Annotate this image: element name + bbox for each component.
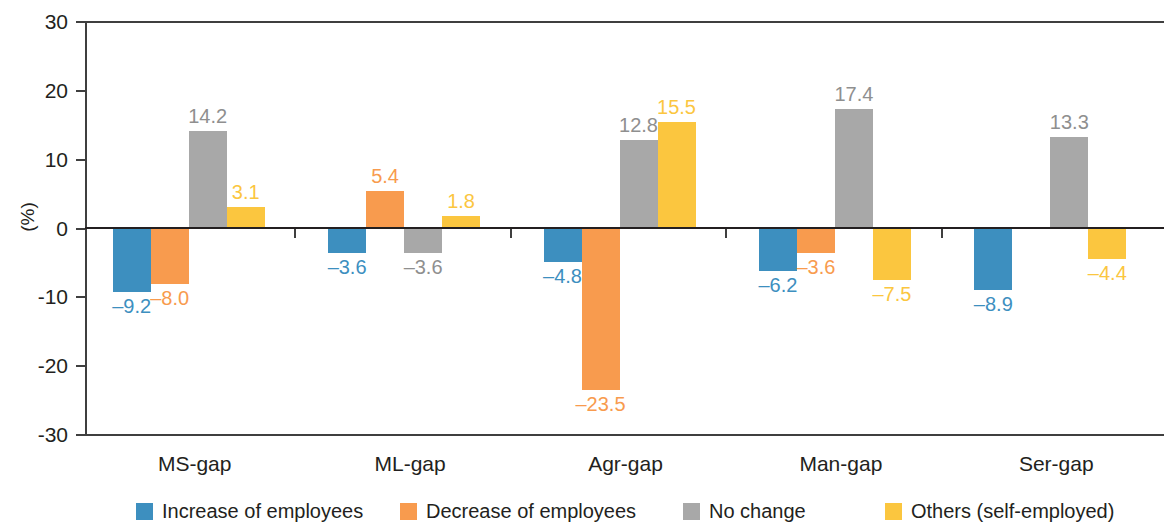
bar-value-label: –3.6	[784, 257, 848, 277]
legend-swatch-icon	[885, 503, 902, 520]
bar-value-label: –3.6	[391, 257, 455, 277]
chart-legend: Increase of employeesDecrease of employe…	[0, 498, 1164, 528]
bar-value-label: –23.5	[569, 394, 633, 414]
bar	[189, 131, 227, 229]
bar-value-label: 12.8	[607, 115, 671, 135]
zero-baseline	[85, 227, 1164, 229]
legend-label: No change	[709, 500, 806, 523]
x-axis-category-label: MS-gap	[87, 452, 302, 476]
group-separator-tick	[725, 229, 727, 238]
group-separator-tick	[941, 229, 943, 238]
bar	[835, 109, 873, 229]
bar-value-label: –7.5	[860, 284, 924, 304]
bar-value-label: 13.3	[1037, 112, 1101, 132]
bar-chart: (%) 3020100-10-20-30 –9.2–8.014.23.1–3.6…	[0, 0, 1164, 530]
legend-label: Others (self-employed)	[911, 500, 1114, 523]
group-separator-tick	[510, 229, 512, 238]
bar	[873, 229, 911, 281]
bar	[227, 207, 265, 228]
bar	[797, 229, 835, 254]
legend-swatch-icon	[136, 503, 153, 520]
x-axis-category-label: ML-gap	[302, 452, 517, 476]
bar	[328, 229, 366, 254]
bar-value-label: –8.0	[138, 288, 202, 308]
bar	[974, 229, 1012, 290]
x-axis-category-label: Agr-gap	[518, 452, 733, 476]
bar-value-label: –6.2	[746, 275, 810, 295]
x-axis-category-label: Man-gap	[733, 452, 948, 476]
plot-area: –9.2–8.014.23.1–3.65.4–3.61.8–4.8–23.512…	[0, 0, 1164, 530]
legend-label: Decrease of employees	[426, 500, 636, 523]
bar-value-label: 1.8	[429, 191, 493, 211]
bar-value-label: 14.2	[176, 106, 240, 126]
bar	[544, 229, 582, 262]
bar-value-label: –4.4	[1075, 263, 1139, 283]
bar	[1088, 229, 1126, 259]
bar	[113, 229, 151, 292]
bar-value-label: –8.9	[961, 294, 1025, 314]
bar-value-label: 3.1	[214, 182, 278, 202]
bar-value-label: 15.5	[645, 97, 709, 117]
legend-label: Increase of employees	[162, 500, 363, 523]
legend-swatch-icon	[683, 503, 700, 520]
legend-item[interactable]: No change	[683, 500, 806, 523]
bar	[366, 191, 404, 228]
legend-swatch-icon	[400, 503, 417, 520]
bar	[151, 229, 189, 284]
group-separator-tick	[294, 229, 296, 238]
bar-value-label: –4.8	[531, 266, 595, 286]
bar-value-label: 5.4	[353, 166, 417, 186]
bar	[658, 122, 696, 229]
legend-item[interactable]: Decrease of employees	[400, 500, 636, 523]
bar	[582, 229, 620, 391]
bar	[1050, 137, 1088, 229]
bar-value-label: –3.6	[315, 257, 379, 277]
x-axis-category-label: Ser-gap	[949, 452, 1164, 476]
legend-item[interactable]: Others (self-employed)	[885, 500, 1114, 523]
legend-item[interactable]: Increase of employees	[136, 500, 363, 523]
bar	[404, 229, 442, 254]
bar	[620, 140, 658, 228]
bar-value-label: 17.4	[822, 84, 886, 104]
